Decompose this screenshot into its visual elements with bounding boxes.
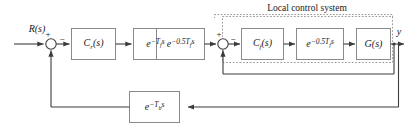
block-cr-base: C xyxy=(84,37,91,48)
block-label-delay-half-tf-inner: e−0.5Tfs xyxy=(306,39,334,51)
block-label-delay-half-tf-outer: e−0.5Tfs xyxy=(167,39,195,51)
output-signal-label: y xyxy=(397,27,401,37)
delay-half-tf-outer-exp-base: −0.5T xyxy=(171,37,190,46)
inner-sum-plus-sign: + xyxy=(216,30,221,39)
block-g-tail: (s) xyxy=(372,38,383,49)
delay-tf-exp-tail: s xyxy=(162,37,165,46)
inner-sum-minus-sign: − xyxy=(230,35,235,44)
delay-tb-exp-tail: s xyxy=(161,100,164,109)
delay-half-tf-outer-exp-tail: s xyxy=(191,37,194,46)
delay-tb-exp-base: −T xyxy=(149,100,158,109)
input-signal-label: R(s) xyxy=(29,24,46,34)
block-label-cr: Cr(s) xyxy=(84,38,104,51)
delay-half-tf-inner-exp-base: −0.5T xyxy=(311,37,330,46)
local-control-system-title: Local control system xyxy=(267,4,347,14)
outer-sum-minus-sign: − xyxy=(59,35,64,44)
control-block-diagram: R(s) + − + − Local control system Cr(s) … xyxy=(0,0,410,132)
delay-tf-exp-base: −T xyxy=(151,37,160,46)
block-cf-tail: (s) xyxy=(262,37,273,48)
block-cr-tail: (s) xyxy=(93,37,104,48)
block-cf-base: C xyxy=(253,37,260,48)
delay-half-tf-inner-exp-tail: s xyxy=(331,37,334,46)
block-label-cf: Cf(s) xyxy=(253,38,272,51)
block-label-delay-tb: e−Tbs xyxy=(145,102,165,114)
block-label-delay-tf: e−Tfs xyxy=(146,39,164,51)
diagram-canvas-overlay xyxy=(0,0,410,132)
inner-summing-junction xyxy=(218,39,228,49)
outer-sum-plus-sign: + xyxy=(45,30,50,39)
block-label-plant-g: G(s) xyxy=(365,39,383,49)
